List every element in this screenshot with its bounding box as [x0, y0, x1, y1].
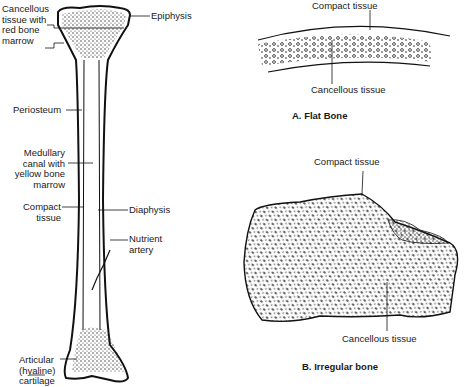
label-flat-cancellous-tissue: Cancellous tissue	[311, 85, 385, 96]
label-diaphysis: Diaphysis	[129, 205, 170, 216]
label-compact-tissue: Compact tissue	[0, 202, 61, 223]
label-irregular-cancellous-tissue: Cancellous tissue	[342, 334, 416, 345]
label-irregular-compact-tissue: Compact tissue	[314, 157, 379, 168]
label-medullary-canal: Medullary canal with yellow bone marrow	[0, 148, 65, 190]
caption-flat-bone: A. Flat Bone	[292, 110, 347, 121]
flat-bone	[258, 10, 450, 84]
label-periosteum: Periosteum	[13, 105, 61, 116]
label-epiphysis: Epiphysis	[151, 11, 192, 22]
label-articular-cartilage: Articular (hyaline) cartilage	[19, 355, 55, 387]
long-bone	[58, 6, 130, 382]
label-flat-compact-tissue: Compact tissue	[312, 1, 377, 12]
label-nutrient-artery: Nutrient artery	[129, 234, 162, 255]
irregular-bone	[244, 171, 458, 331]
label-cancellous-tissue: Cancellous tissue with red bone marrow	[2, 4, 49, 46]
caption-irregular-bone: B. Irregular bone	[302, 361, 378, 372]
